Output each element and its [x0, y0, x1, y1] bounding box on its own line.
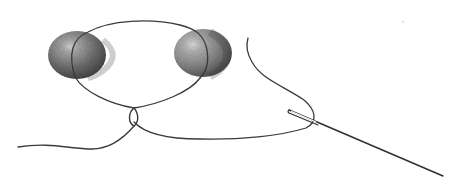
bead-right	[174, 29, 232, 77]
bead-thread-needle-drawing	[0, 0, 472, 187]
knot	[130, 108, 138, 126]
bead-left	[48, 31, 113, 79]
paper-speck	[402, 21, 404, 23]
needle	[288, 110, 443, 176]
